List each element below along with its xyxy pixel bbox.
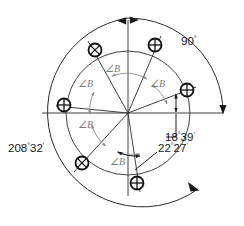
angle-b-label-4: ∠B [78, 119, 93, 130]
label-208-32: 208°32' [8, 142, 44, 154]
angle-b-label-2: ∠B [150, 78, 165, 89]
bolt-hole-top-left [89, 44, 102, 57]
label-22-27: 22°27' [158, 142, 188, 154]
angle-b-label-1: ∠B [105, 63, 120, 74]
bolt-hole-bottom [131, 177, 144, 190]
bolt-hole-top-right [149, 39, 162, 52]
bolt-hole-right [181, 84, 194, 97]
angle-b-label-5: ∠B [110, 156, 125, 167]
bolt-circle-diagram: ∠B ∠B ∠B ∠B ∠B 18°39' 90° 22°27' 208°32' [0, 0, 244, 226]
bolt-hole-left [58, 99, 71, 112]
angle-b-label-3: ∠B [78, 78, 93, 89]
bolt-hole-bottom-left [76, 157, 89, 170]
